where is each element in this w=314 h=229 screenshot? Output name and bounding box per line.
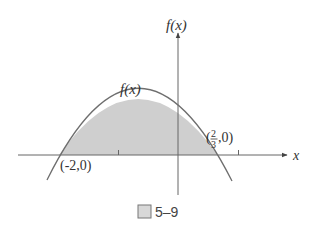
svg-text:,0): ,0) (218, 130, 234, 146)
svg-text:2: 2 (211, 128, 216, 139)
right-root-label: ( 2 3 ,0) (206, 128, 234, 150)
figure-canvas: f(x) x f(x) (-2,0) ( 2 3 ,0) 5–9 (0, 0, 314, 229)
figure-caption: 5–9 (138, 204, 179, 220)
y-axis-label: f(x) (166, 17, 187, 34)
curve-label: f(x) (120, 81, 141, 98)
left-root-label: (-2,0) (60, 158, 92, 174)
x-axis-label: x (292, 148, 300, 163)
svg-text:5–9: 5–9 (155, 204, 179, 220)
svg-text:3: 3 (211, 139, 216, 150)
shaded-area (59, 99, 218, 155)
